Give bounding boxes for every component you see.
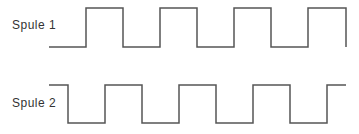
waveform-canvas <box>0 0 359 134</box>
spule-2-waveform <box>49 85 346 123</box>
square-wave-diagram: Spule 1 Spule 2 <box>0 0 359 134</box>
spule-1-waveform <box>49 8 346 47</box>
